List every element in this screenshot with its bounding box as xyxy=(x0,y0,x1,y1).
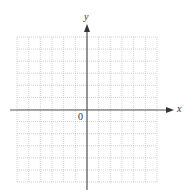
origin-label: 0 xyxy=(78,112,83,122)
x-axis-arrow-icon xyxy=(166,107,174,113)
x-axis-label: x xyxy=(177,104,181,114)
y-axis-arrow-icon xyxy=(84,24,90,32)
y-axis-label: y xyxy=(84,12,88,22)
coordinate-plane xyxy=(0,0,193,193)
